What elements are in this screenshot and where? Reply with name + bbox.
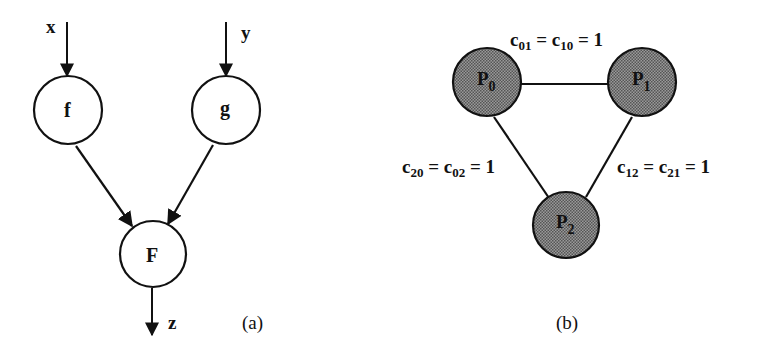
- node-label-P0: P0: [477, 69, 496, 94]
- node-label-P2-sub: 2: [568, 222, 575, 237]
- node-label-P1: P1: [632, 69, 651, 94]
- node-label-P1-sub: 1: [644, 79, 651, 94]
- input-label-y: y: [241, 23, 251, 42]
- edge-label-P0-P2: c20 = c02 = 1: [402, 157, 495, 179]
- node-label-F: F: [146, 245, 158, 265]
- edge-P0-P2: [494, 117, 549, 198]
- node-label-P2: P2: [556, 212, 575, 237]
- caption-b: (b): [556, 313, 578, 332]
- node-label-P1-base: P: [632, 68, 644, 89]
- node-label-f: f: [64, 100, 71, 120]
- output-label-z: z: [168, 313, 176, 332]
- node-label-P0-sub: 0: [489, 79, 496, 94]
- node-label-P0-base: P: [477, 68, 489, 89]
- edge-g-F: [168, 145, 213, 224]
- edge-label-P0-P1: c01 = c10 = 1: [510, 30, 603, 52]
- node-label-g: g: [220, 98, 230, 118]
- figure-a-graph: [34, 22, 260, 335]
- edge-f-F: [76, 146, 132, 226]
- input-label-x: x: [46, 17, 56, 36]
- caption-a: (a): [242, 313, 263, 332]
- node-label-P2-base: P: [556, 211, 568, 232]
- edge-label-P1-P2: c12 = c21 = 1: [617, 157, 710, 179]
